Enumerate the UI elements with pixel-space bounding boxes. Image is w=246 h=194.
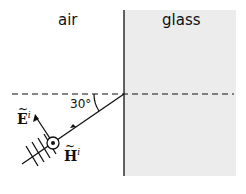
e-field-symbol: E: [17, 111, 28, 127]
h-field-symbol: H: [64, 148, 77, 164]
glass-label: glass: [162, 11, 201, 29]
h-field-label: Hi: [64, 147, 80, 164]
h-field-dot-icon: [51, 141, 55, 145]
diagram-canvas: [0, 0, 246, 194]
angle-arc: [94, 94, 99, 111]
h-field-superscript: i: [77, 147, 80, 157]
angle-label: 30°: [70, 97, 91, 111]
glass-region: [124, 10, 236, 176]
air-label: air: [58, 11, 78, 29]
e-field-label: Ei: [17, 110, 31, 127]
e-field-superscript: i: [28, 110, 31, 120]
